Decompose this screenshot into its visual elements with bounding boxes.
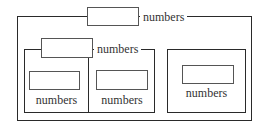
outer-group-caption: numbers (140, 11, 187, 23)
left-group-label-box[interactable] (41, 38, 93, 58)
right-group-box[interactable] (182, 65, 234, 84)
left-cell-2-box[interactable] (96, 70, 148, 90)
left-group-caption: numbers (94, 43, 141, 55)
outer-group-label-box[interactable] (87, 7, 139, 26)
left-cell-1-caption: numbers (24, 94, 89, 106)
right-group-caption: numbers (167, 87, 246, 99)
left-cell-1-box[interactable] (29, 71, 80, 90)
left-cell-2-caption: numbers (89, 94, 155, 106)
